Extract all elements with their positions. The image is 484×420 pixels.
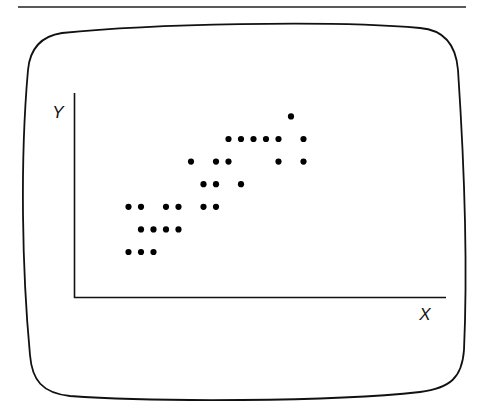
data-point	[175, 226, 181, 232]
data-point	[263, 136, 269, 142]
data-point	[225, 136, 231, 142]
data-point	[238, 181, 244, 187]
data-point	[225, 159, 231, 165]
scatter-plot-diagram: Y X	[0, 0, 484, 420]
data-point	[150, 249, 156, 255]
x-axis-label: X	[418, 305, 431, 324]
data-point	[125, 204, 131, 210]
data-point	[300, 136, 306, 142]
data-point	[238, 136, 244, 142]
data-points	[125, 113, 306, 255]
y-axis-label: Y	[52, 103, 65, 122]
data-point	[138, 249, 144, 255]
data-point	[300, 159, 306, 165]
data-point	[288, 113, 294, 119]
data-point	[213, 204, 219, 210]
data-point	[275, 159, 281, 165]
data-point	[125, 249, 131, 255]
data-point	[175, 204, 181, 210]
crt-screen-outline	[23, 24, 466, 400]
data-point	[213, 181, 219, 187]
data-point	[188, 159, 194, 165]
data-point	[213, 159, 219, 165]
data-point	[150, 226, 156, 232]
data-point	[250, 136, 256, 142]
data-point	[275, 136, 281, 142]
data-point	[200, 204, 206, 210]
data-point	[138, 204, 144, 210]
data-point	[200, 181, 206, 187]
data-point	[138, 226, 144, 232]
data-point	[163, 204, 169, 210]
data-point	[163, 226, 169, 232]
